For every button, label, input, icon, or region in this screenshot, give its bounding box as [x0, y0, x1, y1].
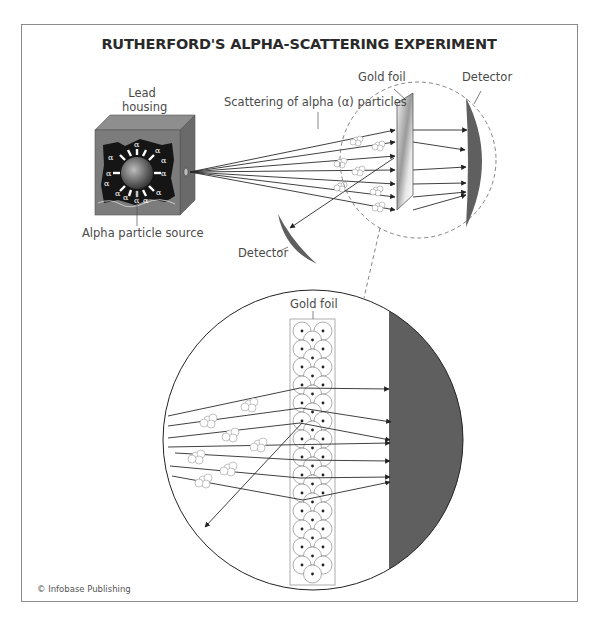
- label-alpha-source: Alpha particle source: [82, 226, 204, 240]
- svg-text:α: α: [108, 153, 114, 162]
- label-scattering: Scattering of alpha (α) particles: [224, 95, 407, 109]
- credit: © Infobase Publishing: [37, 584, 131, 594]
- svg-text:α: α: [106, 169, 112, 178]
- svg-text:α: α: [134, 140, 140, 149]
- label-gold-foil-top: Gold foil: [358, 70, 406, 84]
- label-lead-line2: housing: [122, 100, 162, 114]
- svg-text:α: α: [115, 189, 121, 198]
- svg-text:α: α: [143, 196, 149, 205]
- label-detector-left: Detector: [238, 246, 288, 260]
- label-detector-top: Detector: [462, 70, 512, 84]
- svg-text:α: α: [123, 193, 129, 202]
- label-lead-line1: Lead: [122, 86, 162, 100]
- svg-text:α: α: [156, 188, 162, 197]
- magnified-view: [150, 290, 470, 600]
- svg-text:α: α: [161, 169, 167, 178]
- label-lead-housing: Lead housing: [122, 86, 162, 114]
- svg-text:α: α: [161, 156, 167, 165]
- diagram-graphic: α α α α α α α α α α α α: [0, 0, 598, 625]
- svg-text:α: α: [155, 146, 161, 155]
- alpha-beam: [190, 130, 467, 228]
- label-gold-foil-zoom: Gold foil: [290, 297, 338, 311]
- gold-foil-small: [397, 93, 413, 210]
- svg-text:α: α: [104, 179, 110, 188]
